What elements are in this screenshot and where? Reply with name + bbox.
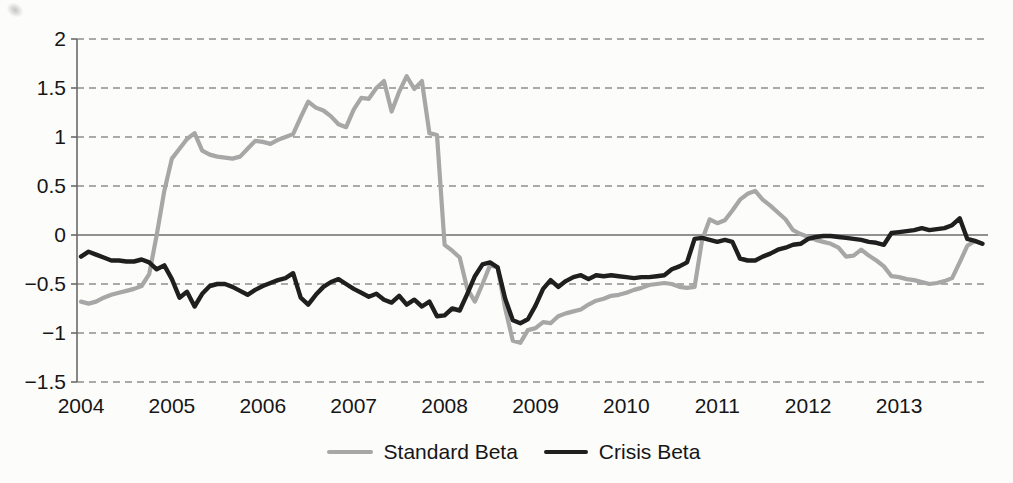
x-tick-label: 2009 — [512, 394, 559, 418]
y-tick-label: 0.5 — [0, 173, 66, 198]
x-tick-label: 2007 — [330, 394, 377, 418]
y-tick-label: −1.5 — [0, 369, 66, 394]
chart-figure: 21.510.50−0.5−1−1.5 20042005200620072008… — [0, 0, 1013, 483]
y-tick-label: 1 — [0, 124, 66, 149]
legend-item-standard-beta: Standard Beta — [327, 440, 518, 464]
legend-item-crisis-beta: Crisis Beta — [544, 440, 701, 464]
y-tick-label: −1 — [0, 320, 66, 345]
legend-label-standard-beta: Standard Beta — [384, 440, 518, 464]
x-tick-label: 2008 — [421, 394, 468, 418]
standard-beta-line-swatch-icon — [327, 450, 373, 454]
x-tick-label: 2010 — [603, 394, 650, 418]
y-tick-label: 0 — [0, 222, 66, 247]
standard-beta-line — [81, 76, 982, 343]
x-tick-label: 2011 — [695, 394, 740, 418]
x-tick-label: 2006 — [239, 394, 286, 418]
x-tick-label: 2004 — [58, 394, 105, 418]
crisis-beta-line-swatch-icon — [544, 450, 588, 455]
x-tick-label: 2005 — [149, 394, 196, 418]
x-tick-label: 2013 — [876, 394, 923, 418]
y-tick-label: −0.5 — [0, 271, 66, 296]
crisis-beta-line — [81, 218, 982, 323]
y-tick-label: 2 — [0, 26, 66, 51]
legend: Standard Beta Crisis Beta — [0, 440, 1013, 464]
x-tick-label: 2012 — [785, 394, 832, 418]
legend-label-crisis-beta: Crisis Beta — [599, 440, 701, 464]
y-tick-label: 1.5 — [0, 75, 66, 100]
